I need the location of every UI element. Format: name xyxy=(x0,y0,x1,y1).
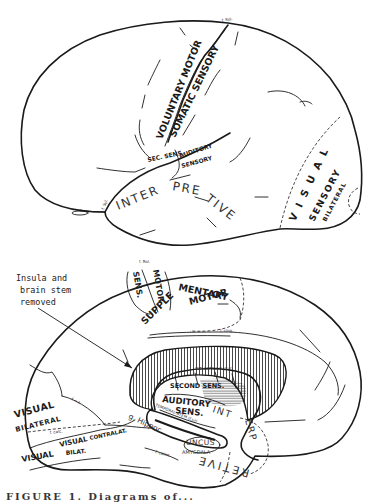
annotation-line-1: Insula and xyxy=(16,273,67,283)
label-second-sens: SECOND SENS. xyxy=(170,382,224,390)
label-uncus: UNCUS xyxy=(186,438,215,447)
annotation-line-3: removed xyxy=(20,297,56,307)
label-f-calc: f. calc. xyxy=(49,428,62,435)
label-int-capsule: INT. CAPSULE (Cut) xyxy=(195,366,234,371)
label-amygdala: AMYGDALA xyxy=(182,449,211,455)
label-interpretive-part1: INTER xyxy=(114,183,162,213)
label-visual-contralat-2: CONTRALAT. xyxy=(89,427,127,441)
label-f-cing: f. cing. xyxy=(220,328,233,333)
brain-diagram: VOLUNTARY MOTOR SOMATIC SENSORY SEC. SEN… xyxy=(0,0,373,504)
lateral-labels: VOLUNTARY MOTOR SOMATIC SENSORY SEC. SEN… xyxy=(100,16,347,224)
label-medial-sens: SENS. xyxy=(131,271,145,299)
label-visual-bilat-2: BILAT. xyxy=(65,447,86,456)
annotation-insula: Insula and brain stem removed xyxy=(16,273,132,368)
annotation-line-2: brain stem xyxy=(20,285,71,295)
label-interpretive-part2: PRE xyxy=(171,179,202,198)
label-retive: RETIVE xyxy=(195,453,251,480)
figure-caption: FIGURE 1. Diagrams of... xyxy=(6,491,195,502)
label-visual-bilat-1: VISUAL xyxy=(21,449,55,464)
label-erp: ERP xyxy=(243,418,260,443)
label-f-cs: f. c.s. xyxy=(71,396,83,405)
label-f-rol: f. Rol. xyxy=(221,16,233,23)
label-medial-f-rol: f. Rol. xyxy=(139,259,150,264)
label-f-collat: f. collat. xyxy=(155,449,172,458)
